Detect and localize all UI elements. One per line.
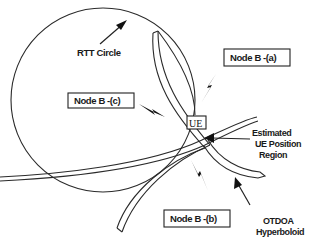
node-b-b-label: Node B -(b) [170,213,217,224]
positioning-diagram: RTT Circle Node B -(a) Node B -(c) UE Es… [0,0,321,250]
estimated-label-line2: UE Position [255,139,301,149]
node-b-c-label: Node B -(c) [74,95,121,106]
signal-bolt-b-icon [191,160,208,191]
estimated-label-line3: Region [259,150,287,160]
hyperboloid-band-vertical [117,31,210,232]
node-b-a-label: Node B -(a) [230,52,277,63]
otdoa-arrow [238,184,250,205]
ue-label: UE [189,118,202,129]
otdoa-label-line2: Hyperboloid [256,227,304,237]
otdoa-label-line1: OTDOA [263,216,294,226]
signal-bolt-c-icon [139,104,165,117]
otdoa-arrowhead [234,177,242,189]
estimated-label-line1: Estimated [252,128,291,138]
rtt-circle-label: RTT Circle [77,47,121,58]
signal-bolt-a-icon [201,74,216,103]
